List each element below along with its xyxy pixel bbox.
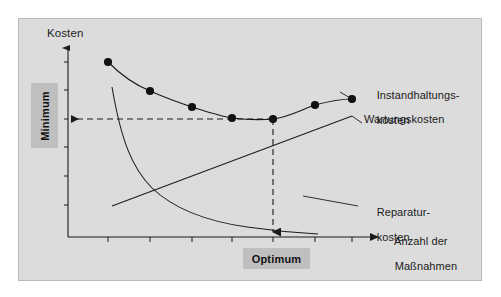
series-label-reparaturkosten-line1: Reparatur-: [377, 206, 431, 218]
minimum-callout-label: Minimum: [39, 91, 51, 141]
series-label-instandhaltungskosten-line1: Instandhaltungs-: [377, 89, 460, 101]
optimum-callout: Optimum: [243, 248, 310, 269]
figure-root: Kosten Instandhaltungs- kosten Wartungsk…: [0, 0, 501, 297]
optimum-callout-label: Optimum: [252, 253, 302, 265]
series-label-instandhaltungskosten: Instandhaltungs- kosten: [364, 76, 460, 139]
minimum-callout: Minimum: [31, 83, 58, 148]
axis-x-title: Anzahl der Maßnahmen: [382, 222, 457, 285]
axis-x-title-line1: Anzahl der: [394, 235, 448, 247]
axis-x-title-line2: Maßnahmen: [395, 260, 458, 272]
series-label-wartungskosten: Wartungskosten: [364, 113, 444, 126]
axis-y-title: Kosten: [47, 27, 83, 40]
